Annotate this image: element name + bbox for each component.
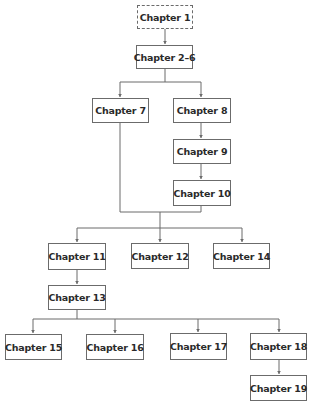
arrowhead-icon bbox=[196, 329, 200, 332]
arrowhead-icon bbox=[75, 281, 79, 284]
arrowhead-icon bbox=[199, 176, 203, 179]
node-chapter-9: Chapter 9 bbox=[173, 139, 231, 164]
connector-line bbox=[120, 69, 201, 97]
node-chapter-7: Chapter 7 bbox=[92, 98, 149, 123]
node-chapter-17: Chapter 17 bbox=[170, 333, 227, 360]
connector-line bbox=[33, 310, 279, 333]
node-chapter-11: Chapter 11 bbox=[48, 243, 106, 270]
arrowhead-icon bbox=[240, 239, 244, 242]
node-chapter-15: Chapter 15 bbox=[5, 334, 62, 360]
arrowhead-icon bbox=[75, 239, 79, 242]
node-chapter-18: Chapter 18 bbox=[250, 333, 307, 360]
node-chapter-13: Chapter 13 bbox=[48, 285, 106, 310]
node-chapter-2-6: Chapter 2–6 bbox=[136, 45, 193, 69]
node-chapter-10: Chapter 10 bbox=[173, 180, 231, 206]
arrowhead-icon bbox=[163, 41, 167, 44]
arrowhead-icon bbox=[113, 330, 117, 333]
node-chapter-16: Chapter 16 bbox=[86, 334, 144, 360]
node-chapter-12: Chapter 12 bbox=[131, 243, 189, 269]
arrowhead-icon bbox=[277, 329, 281, 332]
arrowhead-icon bbox=[158, 239, 162, 242]
connector-line bbox=[77, 212, 242, 242]
arrowhead-icon bbox=[118, 94, 122, 97]
node-chapter-8: Chapter 8 bbox=[173, 98, 231, 123]
chapter-dependency-diagram: Chapter 1 Chapter 2–6 Chapter 7 Chapter … bbox=[0, 0, 309, 402]
arrowhead-icon bbox=[277, 371, 281, 374]
arrowhead-icon bbox=[31, 330, 35, 333]
arrowhead-icon bbox=[199, 135, 203, 138]
node-chapter-19: Chapter 19 bbox=[250, 375, 307, 401]
node-chapter-14: Chapter 14 bbox=[213, 243, 270, 269]
arrowhead-icon bbox=[199, 94, 203, 97]
node-chapter-1: Chapter 1 bbox=[137, 5, 193, 29]
